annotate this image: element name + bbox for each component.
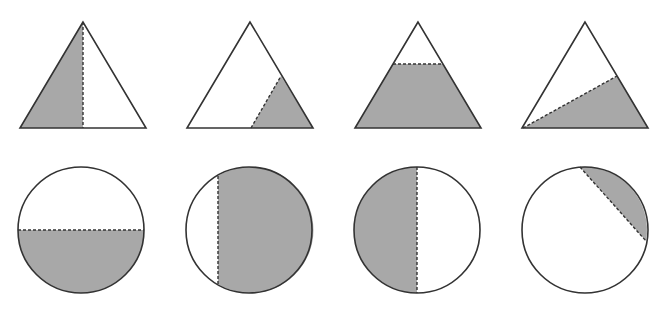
triangle-4: [522, 22, 648, 128]
circle-1: [18, 167, 144, 293]
triangle-3: [355, 22, 481, 128]
circle-3: [354, 167, 480, 293]
triangle-1: [20, 22, 146, 128]
triangle-2: [187, 22, 313, 128]
circle-2: [186, 167, 313, 293]
circle-4: [522, 167, 648, 293]
shapes-figure: [0, 0, 666, 309]
